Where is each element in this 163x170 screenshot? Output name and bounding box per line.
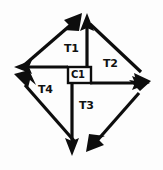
diagram-canvas: T1 T2 T3 T4 C1 [0,0,163,170]
internal-down-arrow [65,83,79,156]
internal-up-arrow [80,13,94,67]
diamond-diagram-svg [0,0,163,170]
region-label-t4: T4 [38,84,53,95]
diagonal-up-right-arrow [22,13,82,67]
diagonal-up-left-arrow [14,70,76,143]
region-label-t2: T2 [103,58,118,69]
diagonal-down-left-arrow [86,93,139,152]
region-label-t3: T3 [79,100,94,111]
region-label-t1: T1 [64,43,79,54]
center-cell-label-c1: C1 [71,70,85,80]
